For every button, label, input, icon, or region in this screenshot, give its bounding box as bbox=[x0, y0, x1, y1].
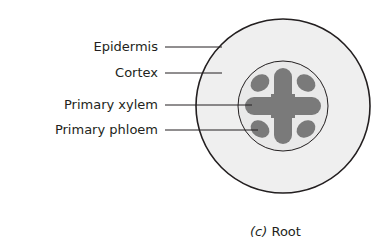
figure-caption: (c) Root bbox=[250, 224, 301, 239]
label-primary-xylem: Primary xylem bbox=[64, 98, 158, 112]
label-primary-phloem: Primary phloem bbox=[55, 123, 158, 137]
label-epidermis: Epidermis bbox=[94, 40, 159, 54]
label-cortex: Cortex bbox=[115, 66, 158, 80]
caption-part: (c) bbox=[250, 224, 267, 239]
caption-title: Root bbox=[271, 224, 300, 239]
